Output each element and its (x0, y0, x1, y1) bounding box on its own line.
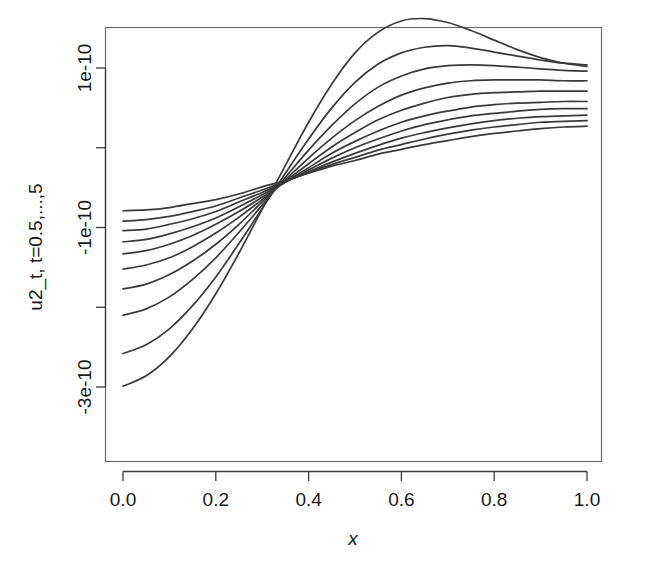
x-axis (123, 472, 587, 482)
x-tick-label: 1.0 (574, 489, 600, 510)
y-axis (96, 68, 106, 387)
y-axis-title: u2_t, t=0.5,...,5 (25, 183, 47, 310)
plot-frame (106, 28, 602, 462)
y-tick-labels: 1e-10-1e-10-3e-10 (74, 44, 95, 415)
series-line (123, 126, 587, 211)
x-tick-label: 0.0 (110, 489, 136, 510)
data-curves (123, 18, 587, 386)
y-tick-label: -3e-10 (74, 360, 95, 415)
series-line (123, 18, 587, 386)
x-tick-labels: 0.00.20.40.60.81.0 (110, 489, 600, 510)
series-line (123, 109, 587, 242)
figure-container: 1e-10-1e-10-3e-10 0.00.20.40.60.81.0 u2_… (0, 0, 646, 574)
x-tick-label: 0.8 (481, 489, 507, 510)
x-axis-title: x (347, 528, 359, 549)
y-tick-label: -1e-10 (74, 200, 95, 255)
series-line (123, 121, 587, 221)
x-tick-label: 0.2 (203, 489, 229, 510)
x-tick-label: 0.6 (388, 489, 414, 510)
line-chart: 1e-10-1e-10-3e-10 0.00.20.40.60.81.0 u2_… (0, 0, 646, 574)
x-tick-label: 0.4 (295, 489, 322, 510)
y-tick-label: 1e-10 (74, 44, 95, 93)
